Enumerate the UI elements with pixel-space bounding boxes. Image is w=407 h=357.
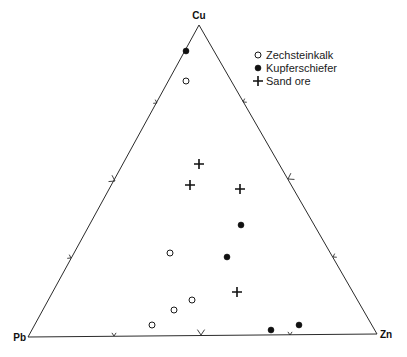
data-point-sand-ore [185,180,195,190]
tick-mark [67,255,71,259]
data-point-kupferschiefer [296,322,302,328]
data-point-sand-ore [194,159,204,169]
legend-label: Sand ore [266,75,311,87]
tick-mark [288,173,294,179]
data-point-zechsteinkalk [167,250,173,256]
legend-item-zechsteinkalk: Zechsteinkalk [255,49,334,61]
ternary-diagram: Cu Pb Zn Zechsteinkalk Kupferschiefer Sa… [0,0,407,357]
data-point-kupferschiefer [268,327,274,333]
tick-mark [112,333,116,336]
data-point-zechsteinkalk [189,297,195,303]
data-point-kupferschiefer [238,222,244,228]
data-point-zechsteinkalk [183,78,189,84]
legend-item-sand-ore: Sand ore [253,75,311,87]
vertex-labels: Cu Pb Zn [13,10,392,343]
legend-label: Kupferschiefer [266,62,337,74]
data-point-sand-ore [232,287,242,297]
vertex-label-pb: Pb [13,332,26,343]
data-point-sand-ore [235,184,245,194]
data-point-zechsteinkalk [149,322,155,328]
data-point-zechsteinkalk [171,307,177,313]
data-point-kupferschiefer [224,254,230,260]
data-point-kupferschiefer [183,48,189,54]
edge-ticks [67,99,337,336]
tick-mark [153,100,157,104]
tick-mark [243,99,247,103]
vertex-label-cu: Cu [192,10,205,21]
plus-icon [253,76,263,86]
tick-mark [333,254,337,258]
open-circle-icon [255,52,261,58]
tick-mark [197,330,204,335]
vertex-label-zn: Zn [380,329,392,340]
legend-label: Zechsteinkalk [266,49,334,61]
filled-circle-icon [255,65,261,71]
legend: Zechsteinkalk Kupferschiefer Sand ore [253,49,337,87]
legend-item-kupferschiefer: Kupferschiefer [255,62,337,74]
data-points [149,48,302,333]
